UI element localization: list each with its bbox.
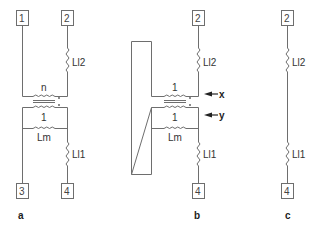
inductor-ll1-icon xyxy=(286,142,289,166)
polarity-dot-icon xyxy=(58,104,60,106)
terminal-4-label: 4 xyxy=(284,186,290,197)
secondary-winding-icon xyxy=(164,95,186,97)
inductor-lm-icon xyxy=(33,127,55,129)
transformer-diagram: 1 2 Ll2 n 1 Lm Ll1 xyxy=(0,0,318,228)
panel-b: 2 Ll2 1 1 Lm Ll1 4 x xyxy=(132,11,226,222)
inductor-ll2-icon xyxy=(66,48,69,72)
terminal-2-label: 2 xyxy=(284,13,290,24)
ratio-top-label: 1 xyxy=(172,82,178,93)
polarity-dot-icon xyxy=(58,97,60,99)
arrow-y: y xyxy=(204,110,225,121)
polarity-dot-icon xyxy=(189,104,191,106)
arrow-x-label: x xyxy=(219,89,225,100)
arrow-left-icon xyxy=(204,113,212,118)
panel-a: 1 2 Ll2 n 1 Lm Ll1 xyxy=(17,11,86,222)
secondary-winding-icon xyxy=(33,95,55,97)
ll2-label: Ll2 xyxy=(292,57,306,68)
panel-a-label: a xyxy=(18,210,24,221)
terminal-1-label: 1 xyxy=(19,13,25,24)
terminal-2-label: 2 xyxy=(64,13,70,24)
terminal-4: 4 xyxy=(62,184,74,199)
inductor-lm-icon xyxy=(164,127,186,129)
terminal-2-label: 2 xyxy=(195,13,201,24)
panel-c: 2 Ll2 Ll1 4 c xyxy=(282,11,306,222)
terminal-4-label: 4 xyxy=(195,186,201,197)
arrow-y-label: y xyxy=(219,110,225,121)
ratio-n-label: n xyxy=(41,82,47,93)
ll1-label: Ll1 xyxy=(72,149,86,160)
ll2-label: Ll2 xyxy=(203,57,217,68)
terminal-1: 1 xyxy=(17,11,29,26)
primary-winding-icon xyxy=(33,106,55,108)
terminal-4: 4 xyxy=(282,184,294,199)
terminal-4-label: 4 xyxy=(64,186,70,197)
terminal-2: 2 xyxy=(282,11,294,26)
terminal-3-label: 3 xyxy=(19,186,25,197)
inductor-ll1-icon xyxy=(66,142,69,166)
terminal-2: 2 xyxy=(193,11,205,26)
panel-b-label: b xyxy=(194,210,200,221)
primary-winding-icon xyxy=(164,106,186,108)
terminal-2: 2 xyxy=(62,11,74,26)
ll1-label: Ll1 xyxy=(203,149,217,160)
arrow-left-icon xyxy=(204,92,212,97)
ratio-bottom-label: 1 xyxy=(172,112,178,123)
terminal-3: 3 xyxy=(17,184,29,199)
polarity-dot-icon xyxy=(189,97,191,99)
terminal-4: 4 xyxy=(193,184,205,199)
ll1-label: Ll1 xyxy=(292,149,306,160)
ll2-label: Ll2 xyxy=(72,57,86,68)
arrow-x: x xyxy=(204,89,225,100)
ratio-1-label: 1 xyxy=(41,112,47,123)
panel-c-label: c xyxy=(285,210,291,221)
lm-label: Lm xyxy=(37,132,51,143)
inductor-ll1-icon xyxy=(197,142,200,166)
lm-label: Lm xyxy=(168,132,182,143)
inductor-ll2-icon xyxy=(286,48,289,72)
inductor-ll2-icon xyxy=(197,48,200,72)
